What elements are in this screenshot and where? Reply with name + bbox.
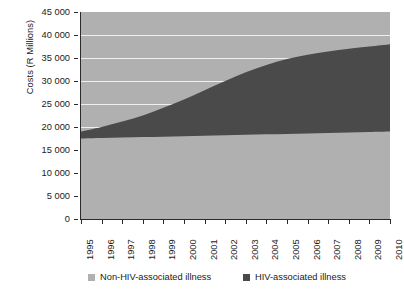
legend-item-non-hiv-associated-illness: Non-HIV-associated illness bbox=[88, 272, 211, 282]
y-axis-tick bbox=[74, 150, 78, 151]
x-axis-tick-label: 1997 bbox=[126, 239, 136, 260]
x-axis-tick-label: 2001 bbox=[209, 239, 219, 260]
y-axis-tick bbox=[74, 35, 78, 36]
x-axis-tick-label: 2000 bbox=[188, 239, 198, 260]
x-axis-tick-label: 1998 bbox=[147, 239, 157, 260]
x-axis-tick bbox=[287, 219, 288, 224]
x-axis-tick bbox=[184, 219, 185, 224]
x-axis-tick bbox=[225, 219, 226, 224]
y-axis-tick-label: 15 000 bbox=[42, 145, 70, 155]
y-axis-tick bbox=[74, 173, 78, 174]
x-axis-ticks bbox=[0, 219, 402, 225]
x-axis-tick-label: 2008 bbox=[353, 239, 363, 260]
y-axis-tick bbox=[74, 104, 78, 105]
x-axis-tick bbox=[246, 219, 247, 224]
legend-swatch-icon bbox=[243, 274, 250, 281]
legend-label: HIV-associated illness bbox=[255, 272, 346, 282]
x-axis-tick bbox=[328, 219, 329, 224]
x-axis-tick bbox=[163, 219, 164, 224]
y-axis-tick bbox=[74, 12, 78, 13]
chart-legend: Non-HIV-associated illness HIV-associate… bbox=[0, 272, 402, 290]
x-axis-tick-label: 2005 bbox=[291, 239, 301, 260]
area-series-group bbox=[81, 12, 390, 219]
y-axis-tick bbox=[74, 81, 78, 82]
x-axis-tick bbox=[143, 219, 144, 224]
y-axis-tick-label: 20 000 bbox=[42, 122, 70, 132]
x-axis-tick bbox=[369, 219, 370, 224]
x-axis-tick bbox=[81, 219, 82, 224]
series-non-hiv-associated-illness-area bbox=[81, 132, 390, 219]
x-axis-tick-label: 1996 bbox=[106, 239, 116, 260]
x-axis-tick-label: 2004 bbox=[270, 239, 280, 260]
plot-area bbox=[81, 12, 390, 219]
x-axis-tick-label: 2002 bbox=[229, 239, 239, 260]
y-axis-tick-label: 25 000 bbox=[42, 99, 70, 109]
x-axis-tick-labels: 1995199619971998199920002001200220032004… bbox=[0, 226, 402, 266]
y-axis-tick-label: 35 000 bbox=[42, 53, 70, 63]
x-axis-tick-label: 2006 bbox=[312, 239, 322, 260]
y-axis-tick-label: 40 000 bbox=[42, 30, 70, 40]
x-axis-tick bbox=[122, 219, 123, 224]
legend-label: Non-HIV-associated illness bbox=[100, 272, 211, 282]
y-axis-tick bbox=[74, 127, 78, 128]
x-axis-tick bbox=[308, 219, 309, 224]
x-axis-tick bbox=[266, 219, 267, 224]
x-axis-tick-label: 1999 bbox=[167, 239, 177, 260]
y-axis-tick-label: 5 000 bbox=[47, 191, 70, 201]
x-axis-tick bbox=[205, 219, 206, 224]
x-axis-tick-label: 2010 bbox=[394, 239, 404, 260]
y-axis-tick bbox=[74, 196, 78, 197]
legend-item-hiv-associated-illness: HIV-associated illness bbox=[243, 272, 346, 282]
x-axis-tick bbox=[102, 219, 103, 224]
x-axis-tick bbox=[349, 219, 350, 224]
x-axis-tick-label: 2009 bbox=[373, 239, 383, 260]
x-axis-tick-label: 1995 bbox=[85, 239, 95, 260]
y-axis-tick-label: 45 000 bbox=[42, 7, 70, 17]
x-axis-tick bbox=[390, 219, 391, 224]
y-axis-tick-label: 10 000 bbox=[42, 168, 70, 178]
y-axis-tick-label: 30 000 bbox=[42, 76, 70, 86]
legend-swatch-icon bbox=[88, 274, 95, 281]
x-axis-tick-label: 2003 bbox=[250, 239, 260, 260]
x-axis-tick-label: 2007 bbox=[332, 239, 342, 260]
y-axis-tick bbox=[74, 58, 78, 59]
